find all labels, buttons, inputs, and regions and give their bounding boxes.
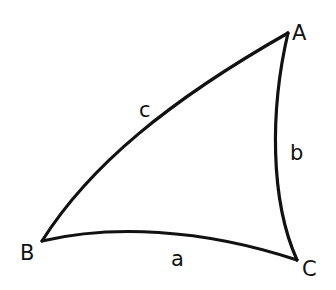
side-c-curve (42, 33, 288, 241)
side-label-c: c (139, 98, 151, 122)
spherical-triangle-diagram: A B C c b a (0, 0, 336, 290)
vertex-label-a: A (292, 21, 307, 45)
side-label-a: a (171, 247, 184, 271)
vertex-label-c: C (302, 257, 317, 281)
vertex-label-b: B (20, 241, 34, 265)
side-label-b: b (290, 141, 303, 165)
side-a-curve (42, 232, 297, 260)
